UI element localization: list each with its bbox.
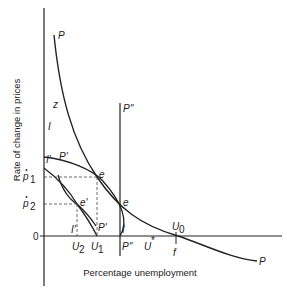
- tick-p1-dot: [26, 169, 28, 171]
- tick-p2-dot: [26, 196, 28, 198]
- label-P-prime-bottom: P': [98, 222, 108, 233]
- tick-U1-sub: 1: [98, 244, 104, 255]
- tick-p2: p: [22, 198, 29, 209]
- point-e-upper: e: [99, 169, 105, 180]
- label-P-top: P: [58, 30, 65, 41]
- label-I-top: I: [48, 121, 51, 132]
- label-P-double-bottom: P'': [122, 241, 134, 252]
- x-axis-title: Percentage unemployment: [83, 267, 197, 278]
- curve-short-run-upper: [44, 157, 178, 236]
- tick-p2-sub: 2: [30, 201, 36, 212]
- label-P-end: P: [259, 256, 266, 267]
- tick-U0-sub: 0: [179, 224, 185, 235]
- phillips-curve-diagram: P z I P'' I' P' e e e' P' I' I P'' f P p…: [0, 0, 287, 302]
- point-e-right: e: [123, 197, 129, 208]
- origin-label: 0: [33, 231, 39, 242]
- tick-p1: p: [22, 171, 29, 182]
- curve-e-e: [44, 158, 245, 272]
- label-I-bottom: I: [122, 224, 125, 235]
- curve-P-prime: [58, 175, 96, 226]
- curve-P: [54, 35, 257, 261]
- tick-p1-sub: 1: [30, 174, 36, 185]
- point-e-prime: e': [80, 197, 89, 208]
- label-f: f: [173, 247, 177, 258]
- tick-U2-sub: 2: [79, 244, 85, 255]
- label-I-prime-bottom: I': [71, 224, 77, 235]
- tick-U-star-sup: *: [151, 235, 155, 246]
- label-z: z: [52, 99, 58, 110]
- label-I-prime: I': [46, 154, 52, 165]
- y-axis-title: Rate of change in prices: [11, 79, 22, 182]
- label-P-double-top: P'': [123, 103, 135, 114]
- label-P-prime-top: P': [59, 151, 69, 162]
